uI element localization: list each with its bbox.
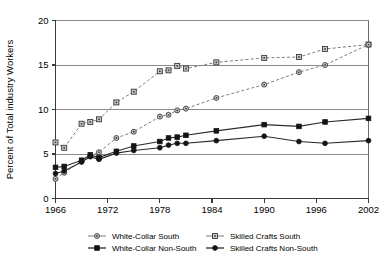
data-point-center <box>159 70 161 72</box>
legend-item-white-collar-south[interactable]: White-Collar South <box>88 232 179 241</box>
data-point-center <box>133 131 135 133</box>
data-point-center <box>115 137 117 139</box>
data-point-center <box>81 123 83 125</box>
y-tick-label-20: 20 <box>38 15 49 26</box>
data-point-center <box>298 56 300 58</box>
data-point <box>88 154 93 159</box>
data-point <box>366 138 371 143</box>
legend-item-skilled-crafts-south[interactable]: Skilled Crafts South <box>206 232 300 241</box>
x-tick-label-2002: 2002 <box>358 204 379 215</box>
data-point <box>166 143 171 148</box>
data-point <box>184 141 189 146</box>
data-point-center <box>215 97 217 99</box>
data-point-center <box>368 44 370 46</box>
data-point <box>297 139 302 144</box>
data-point <box>262 122 267 127</box>
x-tick-label-1990: 1990 <box>254 204 275 215</box>
legend-label: White-Collar South <box>112 232 179 241</box>
data-point-center <box>324 64 326 66</box>
data-point-center <box>63 147 65 149</box>
data-point-center <box>263 84 265 86</box>
data-point-center <box>185 68 187 70</box>
data-point <box>62 169 67 174</box>
data-point-center <box>168 114 170 116</box>
legend-marker-center <box>214 235 216 237</box>
data-point <box>157 145 162 150</box>
data-point-center <box>298 71 300 73</box>
data-point <box>184 133 189 138</box>
data-point-center <box>98 118 100 120</box>
legend: White-Collar SouthSkilled Crafts SouthWh… <box>88 232 318 253</box>
data-point-center <box>133 91 135 93</box>
series-line <box>56 45 369 148</box>
x-tick-label-1978: 1978 <box>149 204 170 215</box>
legend-marker <box>213 246 218 251</box>
data-point-center <box>55 178 57 180</box>
data-point <box>175 141 180 146</box>
data-point <box>366 116 371 121</box>
legend-label: Skilled Crafts South <box>230 232 300 241</box>
line-chart: 051015201966197219781984199019962002Perc… <box>0 0 388 267</box>
data-point <box>53 165 58 170</box>
legend-marker <box>95 246 100 251</box>
x-axis: 1966197219781984199019962002 <box>45 199 379 215</box>
data-point <box>214 129 219 134</box>
x-tick-label-1966: 1966 <box>45 204 66 215</box>
chart-figure: 051015201966197219781984199019962002Perc… <box>0 0 388 267</box>
data-point <box>214 138 219 143</box>
data-point <box>79 160 84 165</box>
legend-label: White-Collar Non-South <box>112 244 196 253</box>
data-point <box>97 157 102 162</box>
data-point-center <box>176 109 178 111</box>
data-point <box>262 134 267 139</box>
data-point <box>62 164 67 169</box>
data-point-center <box>324 48 326 50</box>
y-axis-title: Percent of Total industry Workers <box>4 39 15 179</box>
y-tick-label-15: 15 <box>38 59 49 70</box>
data-point-center <box>98 151 100 153</box>
legend-item-skilled-crafts-non-south[interactable]: Skilled Crafts Non-South <box>206 244 318 253</box>
data-point <box>131 148 136 153</box>
data-point-center <box>89 121 91 123</box>
gridlines <box>56 21 369 155</box>
series-line <box>56 136 369 173</box>
data-point <box>297 124 302 129</box>
legend-label: Skilled Crafts Non-South <box>230 244 318 253</box>
y-tick-label-0: 0 <box>43 193 48 204</box>
data-point <box>131 144 136 149</box>
series-skilled-crafts-south <box>53 42 371 150</box>
data-point <box>175 135 180 140</box>
data-point <box>158 139 163 144</box>
y-tick-label-5: 5 <box>43 148 48 159</box>
data-point <box>323 120 328 125</box>
legend-item-white-collar-non-south[interactable]: White-Collar Non-South <box>88 244 196 253</box>
data-point-center <box>116 102 118 104</box>
y-axis: 05101520 <box>38 15 56 204</box>
data-point-center <box>176 65 178 67</box>
data-point <box>114 151 119 156</box>
data-point-center <box>159 116 161 118</box>
y-tick-label-10: 10 <box>38 104 49 115</box>
data-point <box>166 136 171 141</box>
x-tick-label-1996: 1996 <box>306 204 327 215</box>
data-point-center <box>185 108 187 110</box>
data-point-center <box>168 70 170 72</box>
data-point <box>53 171 58 176</box>
data-point <box>323 141 328 146</box>
legend-marker-center <box>96 235 98 237</box>
x-tick-label-1984: 1984 <box>201 204 222 215</box>
data-point-center <box>55 142 57 144</box>
data-point-center <box>216 62 218 64</box>
x-tick-label-1972: 1972 <box>97 204 118 215</box>
data-point-center <box>263 57 265 59</box>
